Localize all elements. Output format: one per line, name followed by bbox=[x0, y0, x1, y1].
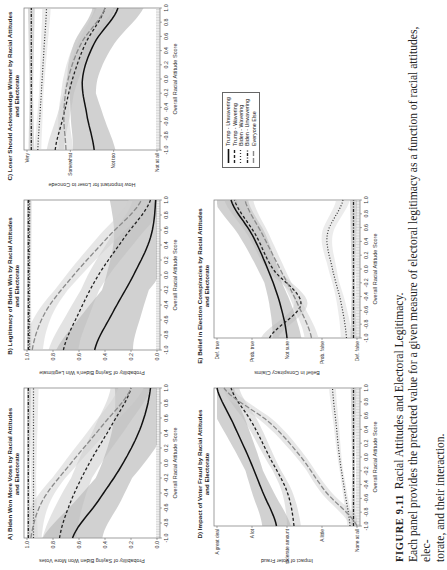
svg-text:0.8: 0.8 bbox=[163, 18, 169, 25]
svg-text:Not at all: Not at all bbox=[155, 153, 160, 172]
svg-text:0.8: 0.8 bbox=[163, 399, 169, 406]
svg-text:0.0: 0.0 bbox=[363, 265, 369, 272]
svg-text:0.2: 0.2 bbox=[128, 353, 134, 361]
svg-text:0.6: 0.6 bbox=[163, 414, 169, 421]
svg-text:0.6: 0.6 bbox=[163, 33, 169, 40]
svg-text:1.0: 1.0 bbox=[363, 196, 369, 203]
svg-text:Very: Very bbox=[25, 152, 30, 162]
svg-text:1.0: 1.0 bbox=[163, 384, 169, 391]
svg-text:0.8: 0.8 bbox=[50, 541, 56, 549]
svg-text:-0.2: -0.2 bbox=[163, 473, 169, 482]
panel-a: A) Biden Won More Votes by Racial Attitu… bbox=[6, 384, 186, 564]
svg-text:Impact of Voter Fraud: Impact of Voter Fraud bbox=[261, 558, 313, 564]
svg-text:1.0: 1.0 bbox=[163, 4, 169, 11]
figure-label: FIGURE 9.11 bbox=[394, 494, 405, 562]
svg-text:Probability of Saying Biden's: Probability of Saying Biden's Win Legiti… bbox=[39, 370, 144, 376]
panel-b-title: B) Legitimacy of Biden Win by Racial Att… bbox=[6, 196, 20, 376]
svg-text:0.6: 0.6 bbox=[363, 224, 369, 231]
svg-text:1.0: 1.0 bbox=[363, 384, 369, 391]
svg-text:0.4: 0.4 bbox=[363, 238, 369, 245]
svg-text:0.4: 0.4 bbox=[163, 241, 169, 248]
svg-text:-0.2: -0.2 bbox=[363, 466, 369, 475]
long-dash-line-icon bbox=[251, 149, 256, 163]
svg-text:-0.2: -0.2 bbox=[163, 89, 169, 98]
svg-text:0.8: 0.8 bbox=[363, 210, 369, 217]
svg-text:0.0: 0.0 bbox=[154, 541, 160, 549]
svg-text:0.2: 0.2 bbox=[163, 444, 169, 451]
svg-text:Overall Racial Attitude Score: Overall Racial Attitude Score bbox=[172, 239, 178, 310]
svg-text:0.2: 0.2 bbox=[363, 251, 369, 258]
svg-text:0.6: 0.6 bbox=[76, 541, 82, 549]
svg-text:0.8: 0.8 bbox=[163, 211, 169, 218]
svg-text:Not too: Not too bbox=[111, 153, 116, 169]
panel-b: B) Legitimacy of Biden Win by Racial Att… bbox=[6, 196, 186, 376]
svg-text:0.8: 0.8 bbox=[363, 398, 369, 405]
svg-text:0.6: 0.6 bbox=[163, 226, 169, 233]
svg-text:-0.6: -0.6 bbox=[163, 315, 169, 324]
svg-text:0.0: 0.0 bbox=[363, 453, 369, 460]
svg-text:Belief in Conspiracy Claims: Belief in Conspiracy Claims bbox=[254, 370, 320, 376]
legend-item: Biden - Wavering bbox=[238, 97, 244, 163]
panel-d-chart: -1.0-0.8-0.6-0.4-0.20.00.20.40.60.81.0Ov… bbox=[196, 384, 386, 564]
short-dash-line-icon bbox=[232, 149, 237, 163]
svg-text:1.0: 1.0 bbox=[24, 541, 30, 549]
svg-text:0.0: 0.0 bbox=[163, 271, 169, 278]
legend-item: Biden - Unwavering bbox=[244, 97, 250, 163]
svg-text:Overall Racial Attitude Score: Overall Racial Attitude Score bbox=[372, 233, 378, 304]
panel-e-chart: -1.0-0.8-0.6-0.4-0.20.00.20.40.60.81.0Ov… bbox=[196, 196, 386, 376]
svg-text:0.2: 0.2 bbox=[163, 61, 169, 68]
svg-text:-1.0: -1.0 bbox=[363, 333, 369, 342]
svg-text:-1.0: -1.0 bbox=[163, 145, 169, 154]
legend-item: Everyone Else bbox=[251, 97, 257, 163]
svg-text:Overall Racial Attitude Score: Overall Racial Attitude Score bbox=[172, 43, 178, 114]
svg-text:-0.8: -0.8 bbox=[363, 320, 369, 329]
caption-line: torate, and their interaction. bbox=[434, 2, 447, 562]
svg-text:0.6: 0.6 bbox=[363, 412, 369, 419]
svg-text:0.4: 0.4 bbox=[163, 429, 169, 436]
svg-text:-0.2: -0.2 bbox=[163, 285, 169, 294]
svg-text:0.2: 0.2 bbox=[363, 439, 369, 446]
svg-text:-0.4: -0.4 bbox=[363, 480, 369, 489]
svg-text:-1.0: -1.0 bbox=[163, 533, 169, 542]
svg-text:1.0: 1.0 bbox=[163, 196, 169, 203]
figure-caption: FIGURE 9.11Racial Attitudes and Electora… bbox=[393, 2, 447, 562]
svg-text:0.4: 0.4 bbox=[102, 541, 108, 549]
svg-text:0.4: 0.4 bbox=[102, 353, 108, 361]
svg-text:-1.0: -1.0 bbox=[363, 521, 369, 530]
panel-e: E) Belief in Election Conspiracies by Ra… bbox=[196, 196, 386, 376]
svg-text:Def. false: Def. false bbox=[355, 341, 360, 362]
dot-dash-line-icon bbox=[245, 149, 250, 163]
svg-text:-0.8: -0.8 bbox=[363, 508, 369, 517]
panel-e-title: E) Belief in Election Conspiracies by Ra… bbox=[196, 196, 210, 376]
chart-legend: Trump - Unwavering Trump - Wavering Bide… bbox=[222, 92, 260, 168]
svg-text:-0.4: -0.4 bbox=[163, 300, 169, 309]
svg-text:A great deal: A great deal bbox=[215, 529, 220, 555]
svg-text:None at all: None at all bbox=[355, 529, 360, 552]
svg-text:-0.6: -0.6 bbox=[163, 503, 169, 512]
svg-text:-0.6: -0.6 bbox=[363, 494, 369, 503]
panel-c: C) Loser Should Acknowledge Winner by Ra… bbox=[6, 4, 186, 188]
svg-text:-0.2: -0.2 bbox=[363, 278, 369, 287]
svg-text:0.0: 0.0 bbox=[163, 459, 169, 466]
svg-text:How Important for Loser to Con: How Important for Loser to Concede bbox=[49, 182, 136, 188]
svg-text:-0.4: -0.4 bbox=[163, 488, 169, 497]
svg-text:Prob. true: Prob. true bbox=[250, 341, 255, 362]
panel-d: D) Impact of Voter Fraud by Racial Attit… bbox=[196, 384, 386, 564]
panel-a-chart: -1.0-0.8-0.6-0.4-0.20.00.20.40.60.81.0Ov… bbox=[6, 384, 186, 564]
svg-text:-0.6: -0.6 bbox=[163, 117, 169, 126]
svg-text:Not sure: Not sure bbox=[285, 341, 290, 359]
svg-text:1.0: 1.0 bbox=[24, 353, 30, 361]
caption-line: Each panel provides the predicted value … bbox=[407, 2, 434, 562]
svg-text:Overall Racial Attitude Score: Overall Racial Attitude Score bbox=[372, 421, 378, 492]
panel-c-title: C) Loser Should Acknowledge Winner by Ra… bbox=[6, 4, 20, 188]
panel-a-title: A) Biden Won More Votes by Racial Attitu… bbox=[6, 384, 20, 564]
svg-text:A lot: A lot bbox=[250, 528, 255, 538]
solid-line-icon bbox=[226, 149, 231, 163]
svg-text:-0.8: -0.8 bbox=[163, 131, 169, 140]
legend-item: Trump - Wavering bbox=[231, 97, 237, 163]
svg-text:Probability of Saying Biden Wo: Probability of Saying Biden Won More Vot… bbox=[39, 558, 145, 564]
svg-text:Somewhat: Somewhat bbox=[68, 152, 73, 175]
svg-text:0.2: 0.2 bbox=[128, 541, 134, 549]
svg-text:0.0: 0.0 bbox=[154, 353, 160, 361]
